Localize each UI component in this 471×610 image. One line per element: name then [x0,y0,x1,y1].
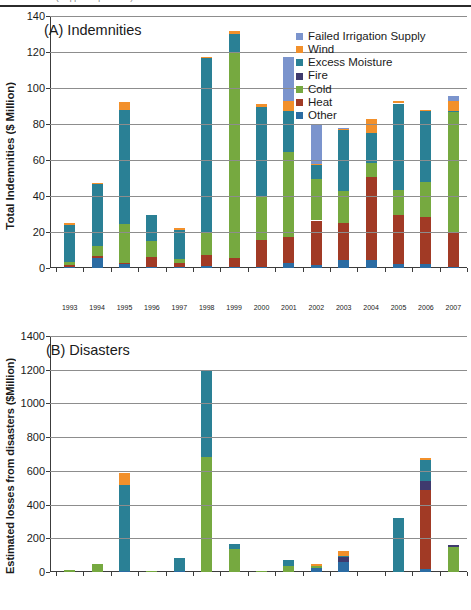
bar-segment [283,101,294,111]
stacked-bar[interactable] [146,336,157,572]
bar-segment [229,52,240,258]
y-tick-mark [46,88,50,89]
bar-segment [256,107,267,197]
x-tick-mark [357,268,358,272]
panel-a-legend-label: Wind [308,44,334,56]
bar-segment [311,179,322,220]
bar-segment [119,485,130,571]
stacked-bar[interactable] [229,336,240,572]
bar-segment [64,223,75,224]
stacked-bar[interactable] [393,336,404,572]
stacked-bar[interactable] [256,336,267,572]
x-tick-mark [56,572,57,576]
bar-segment [338,128,349,129]
panel-b-title: (B) Disasters [46,342,130,358]
stacked-bar[interactable] [229,16,240,268]
stacked-bar[interactable] [311,336,322,572]
panel-a-legend-item[interactable]: Fire [296,70,426,83]
bar-segment [393,264,404,268]
stacked-bar[interactable] [366,336,377,572]
legend-swatch-icon [296,59,303,66]
panel-a-legend-item[interactable]: Excess Moisture [296,56,426,69]
panel-a-legend-label: Heat [308,97,332,109]
bar-segment [311,165,322,179]
y-tick-label: 80 [33,118,45,130]
x-tick-mark [330,268,331,272]
gridline [50,403,467,404]
x-tick-mark [440,268,441,272]
panel-a-legend-item[interactable]: Cold [296,83,426,96]
y-tick-label: 1000 [21,397,45,409]
bar-segment [229,31,240,34]
gridline [50,16,467,17]
bar-segment [119,264,130,268]
stacked-bar[interactable] [119,336,130,572]
x-tick-mark [248,572,249,576]
x-tick-label: 2003 [336,304,352,311]
stacked-bar[interactable] [174,16,185,268]
panel-a-legend-item[interactable]: Other [296,109,426,122]
stacked-bar[interactable] [256,16,267,268]
stacked-bar[interactable] [283,16,294,268]
stacked-bar[interactable] [92,16,103,268]
bar-segment [338,223,349,260]
bar-segment [92,183,103,246]
x-tick-mark [385,572,386,576]
bar-segment [174,571,185,572]
stacked-bar[interactable] [201,16,212,268]
panel-a-legend-item[interactable]: Failed Irrigation Supply [296,30,426,43]
y-tick-mark [46,336,50,337]
y-tick-mark [46,505,50,506]
x-tick-label: 1993 [62,304,78,311]
bar-segment [311,265,322,268]
panel-a-legend-label: Fire [308,70,328,82]
panel-a-y-tick-labels: 020406080100120140 [22,8,48,304]
stacked-bar[interactable] [420,336,431,572]
bar-segment [256,571,267,572]
stacked-bar[interactable] [146,16,157,268]
stacked-bar[interactable] [64,336,75,572]
stacked-bar[interactable] [448,16,459,268]
x-tick-label: 1998 [199,304,215,311]
stacked-bar[interactable] [92,336,103,572]
bar-segment [338,562,349,572]
gridline [50,160,467,161]
bar-segment [366,163,377,177]
x-tick-mark [357,572,358,576]
y-tick-mark [46,437,50,438]
stacked-bar[interactable] [119,16,130,268]
y-tick-label: 60 [33,154,45,166]
panel-a-legend-item[interactable]: Wind [296,43,426,56]
bar-segment [420,264,431,268]
bar-segment [119,473,130,485]
stacked-bar[interactable] [283,336,294,572]
gridline [50,124,467,125]
stacked-bar[interactable] [64,16,75,268]
bar-segment [256,197,267,240]
y-tick-mark [46,16,50,17]
bar-segment [283,566,294,572]
stacked-bar[interactable] [448,336,459,572]
panel-b-plot-wrapper: 0200400600800100012001400 [22,322,469,610]
y-tick-label: 140 [27,10,45,22]
panel-a-legend-item[interactable]: Heat [296,96,426,109]
y-tick-mark [46,572,50,573]
legend-swatch-icon [296,33,303,40]
bar-segment [311,125,322,163]
bar-segment [174,558,185,571]
x-tick-label: 2005 [391,304,407,311]
panel-a-legend-label: Cold [308,84,332,96]
stacked-bar[interactable] [201,336,212,572]
bar-segment [174,263,185,267]
x-tick-mark [138,572,139,576]
x-tick-mark [166,572,167,576]
bar-segment [448,101,459,110]
chart-panel-disasters: Estimated losses from disasters ($Millio… [0,322,471,610]
y-tick-mark [46,232,50,233]
stacked-bar[interactable] [174,336,185,572]
panel-a-legend-label: Failed Irrigation Supply [308,31,426,43]
bar-segment [201,57,212,231]
y-tick-mark [46,538,50,539]
y-tick-label: 400 [27,499,45,511]
stacked-bar[interactable] [338,336,349,572]
